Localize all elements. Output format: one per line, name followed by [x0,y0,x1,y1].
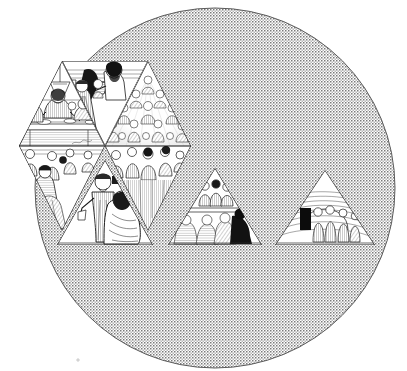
illustration-canvas: Tessellated Triangular Panels over Halft… [0,0,407,371]
illustration-svg [0,0,407,371]
lower-mark [76,358,80,362]
